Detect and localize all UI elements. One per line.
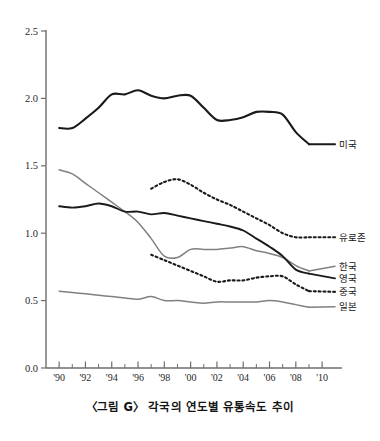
- x-tick-label: '10: [316, 372, 328, 383]
- x-tick-label: '00: [185, 372, 197, 383]
- figure-caption: 〈그림 G〉 각국의 연도별 유통속도 추이: [0, 398, 380, 414]
- x-tick-label: '90: [53, 372, 65, 383]
- y-tick-label: 0.5: [25, 295, 38, 306]
- figure-container: 0.00.51.01.52.02.5 '90'92'94'96'98'00'02…: [0, 0, 380, 441]
- series-label-japan: 일본: [339, 301, 357, 312]
- series-label-korea: 한국: [339, 261, 357, 272]
- x-tick-label: '96: [132, 372, 144, 383]
- line-chart: 0.00.51.01.52.02.5 '90'92'94'96'98'00'02…: [0, 0, 380, 441]
- y-tick-label: 1.5: [25, 160, 38, 171]
- series-label-china: 중국: [339, 286, 357, 297]
- x-tick-label: '02: [211, 372, 223, 383]
- series-label-uk: 영국: [339, 273, 357, 284]
- x-tick-label: '08: [290, 372, 302, 383]
- x-tick-label: '04: [237, 372, 249, 383]
- x-tick-label: '92: [80, 372, 92, 383]
- series-leader-line: [309, 307, 335, 308]
- y-tick-label: 2.0: [25, 93, 38, 104]
- y-tick-label: 1.0: [25, 228, 38, 239]
- series-label-usa: 미국: [339, 139, 357, 150]
- y-tick-label: 2.5: [25, 26, 38, 37]
- x-tick-label: '98: [158, 372, 170, 383]
- x-tick-label: '94: [106, 372, 118, 383]
- series-label-eurozone: 유로존: [339, 232, 366, 243]
- y-tick-label: 0.0: [25, 363, 38, 374]
- x-tick-label: '06: [264, 372, 276, 383]
